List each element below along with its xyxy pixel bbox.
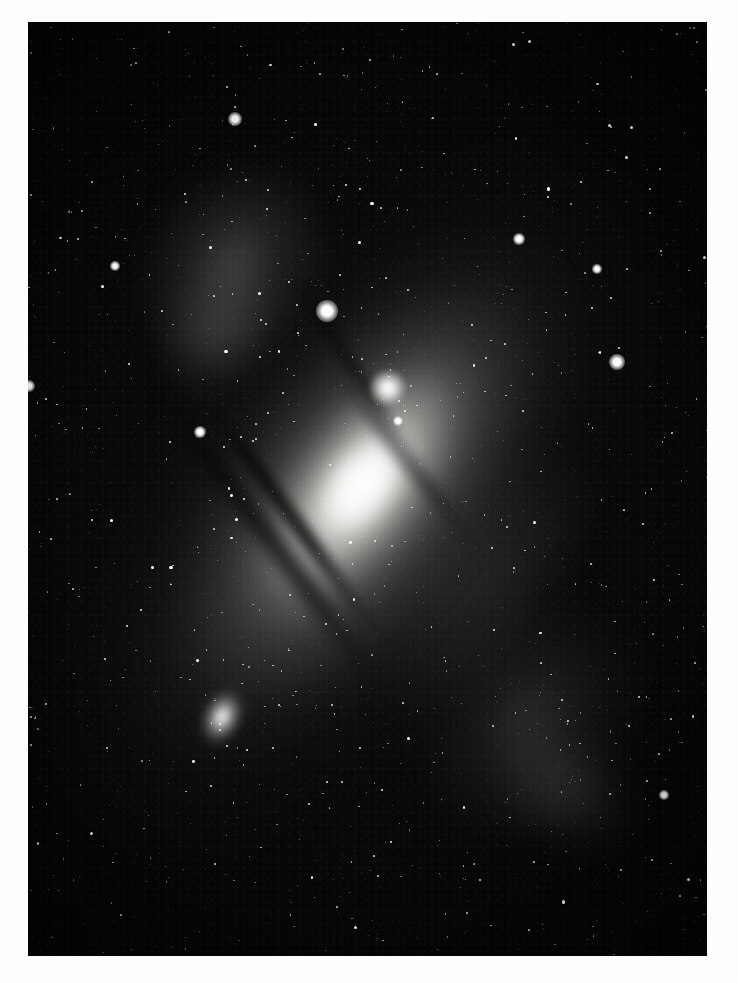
plate-page xyxy=(0,0,738,983)
emulsion-texture xyxy=(28,22,707,956)
satellite-galaxy-m32 xyxy=(370,370,406,406)
astronomy-photograph xyxy=(28,22,707,956)
